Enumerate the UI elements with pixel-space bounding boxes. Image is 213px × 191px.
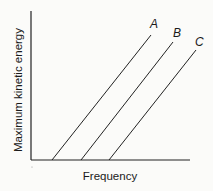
x-axis-label: Frequency (83, 170, 138, 182)
series-line-b (81, 42, 173, 160)
series-label-a: A (149, 17, 158, 31)
series-label-b: B (173, 26, 181, 40)
y-axis-label: Maximum kinetic energy (12, 28, 24, 152)
series-line-a (52, 35, 151, 160)
speck (31, 166, 32, 167)
series-line-c (109, 50, 196, 160)
series-label-c: C (195, 35, 204, 49)
chart: A B C Frequency Maximum kinetic energy (0, 0, 213, 191)
